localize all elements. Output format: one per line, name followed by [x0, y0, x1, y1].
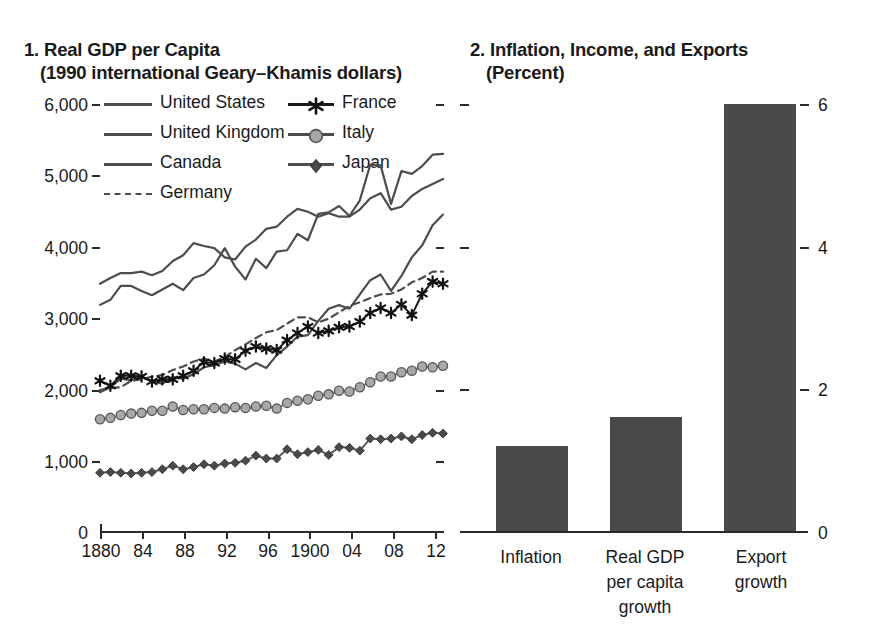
panel2-title-line1: 2. Inflation, Income, and Exports — [470, 38, 748, 61]
y-tick-3000 — [92, 318, 100, 320]
legend-item-japan: Japan — [288, 152, 418, 176]
y-tick-left-2 — [460, 389, 469, 391]
legend-label-japan: Japan — [342, 152, 390, 173]
y-tick-right-4000 — [436, 247, 444, 249]
y-axis-label-3000: 3,000 — [18, 309, 88, 330]
bar-inflation — [496, 446, 568, 531]
legend-item-italy: Italy — [288, 122, 418, 146]
y-axis-label-5000: 5,000 — [18, 166, 88, 187]
bar-chart-baseline — [460, 531, 808, 533]
y-tick-left-6 — [460, 104, 469, 106]
panel1-title-line1: 1. Real GDP per Capita — [24, 38, 220, 61]
legend-label-germany: Germany — [160, 182, 232, 203]
circle-marker-icon — [306, 126, 326, 146]
y-tick-right-4 — [800, 247, 809, 249]
legend-item-united-states: United States — [104, 92, 284, 116]
y-tick-right-6 — [800, 104, 809, 106]
y-tick-right-2 — [800, 389, 809, 391]
x-tick-1888 — [184, 531, 186, 539]
x-tick-1884 — [142, 531, 144, 539]
y-axis-label-1000: 1,000 — [18, 452, 88, 473]
panel1-title-line2: (1990 international Geary–Khamis dollars… — [40, 61, 402, 84]
bar-label-export-growth-line2: growth — [686, 570, 836, 595]
star-marker-icon — [306, 96, 326, 116]
y-tick-right-2000 — [436, 390, 444, 392]
legend-label-canada: Canada — [160, 152, 221, 173]
legend-item-germany: Germany — [104, 182, 274, 206]
y-tick-left-4 — [460, 247, 469, 249]
y-axis-label-6000: 6,000 — [18, 95, 88, 116]
x-tick-1912 — [435, 531, 437, 539]
x-tick-1900 — [309, 531, 311, 539]
legend-swatch-line-united-states — [104, 103, 152, 106]
legend-item-canada: Canada — [104, 152, 264, 176]
legend-swatch-dashed-germany — [104, 193, 152, 195]
bar-label-export-growth-line1: Export — [686, 545, 836, 570]
legend-swatch-line-canada — [104, 163, 152, 166]
legend-swatch-line-united-kingdom — [104, 133, 152, 136]
y-axis-label-6: 6 — [818, 95, 828, 116]
y-tick-4000 — [92, 247, 100, 249]
y-tick-right-1000 — [436, 461, 444, 463]
y-tick-5000 — [92, 175, 100, 177]
legend-label-italy: Italy — [342, 122, 374, 143]
legend-label-united-kingdom: United Kingdom — [160, 122, 285, 143]
legend-item-united-kingdom: United Kingdom — [104, 122, 304, 146]
bar-export-growth — [724, 104, 796, 531]
y-tick-2000 — [92, 390, 100, 392]
legend-label-france: France — [342, 92, 396, 113]
y-axis-label-4: 4 — [818, 238, 828, 259]
x-tick-1892 — [226, 531, 228, 539]
y-tick-1000 — [92, 461, 100, 463]
bar-real-gdp-per-capita-growth — [610, 417, 682, 531]
panel-real-gdp-per-capita: 1. Real GDP per Capita (1990 internation… — [0, 0, 460, 639]
legend-label-united-states: United States — [160, 92, 265, 113]
x-tick-1896 — [268, 531, 270, 539]
bar-label-export-growth: Export growth — [686, 545, 836, 595]
y-axis-label-4000: 4,000 — [18, 238, 88, 259]
panel2-title-line2: (Percent) — [486, 61, 564, 84]
y-axis-label-2000: 2,000 — [18, 381, 88, 402]
x-tick-1908 — [393, 531, 395, 539]
legend-item-france: France — [288, 92, 428, 116]
x-tick-1880 — [100, 531, 102, 539]
y-tick-6000 — [92, 104, 100, 106]
y-axis-label-2: 2 — [818, 380, 828, 401]
y-axis-label-0: 0 — [818, 523, 828, 544]
bar-label-real-gdp-growth-line3: growth — [570, 595, 720, 620]
y-tick-right-6000 — [436, 104, 444, 106]
panel-inflation-income-exports: 2. Inflation, Income, and Exports (Perce… — [460, 0, 889, 639]
x-tick-1904 — [351, 531, 353, 539]
diamond-marker-icon — [306, 156, 326, 176]
